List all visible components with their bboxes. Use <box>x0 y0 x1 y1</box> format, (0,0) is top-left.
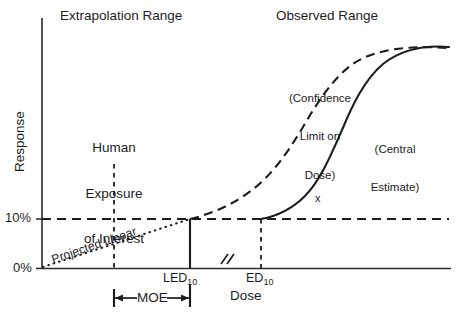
central-line-1: (Central <box>358 143 432 156</box>
y-tick-label-0pct: 0% <box>13 261 32 276</box>
confidence-line-1: (Confidence <box>277 92 363 105</box>
human-exposure-line-1: Human <box>66 140 162 155</box>
moe-label: MOE <box>137 290 168 305</box>
dose-response-figure: Extrapolation Range Observed Range Respo… <box>0 0 457 316</box>
confidence-line-2: Limit on <box>277 130 363 143</box>
axis-break-icon <box>221 254 234 264</box>
central-line-2: Estimate) <box>358 181 432 194</box>
header-extrapolation-range: Extrapolation Range <box>60 8 182 23</box>
y-axis-title: Response <box>12 111 27 172</box>
ed10-base: ED <box>246 271 263 285</box>
led10-subscript: 10 <box>187 277 197 287</box>
annotation-central-estimate: (Central Estimate) <box>358 117 432 220</box>
led10-base: LED <box>163 271 187 285</box>
x-tick-label-led10: LED10 <box>163 271 197 285</box>
confidence-line-3: Dose) <box>277 169 363 182</box>
header-observed-range: Observed Range <box>276 8 378 23</box>
annotation-confidence-limit: (Confidence Limit on Dose) <box>277 66 363 208</box>
x-tick-label-ed10: ED10 <box>246 271 273 285</box>
ed10-subscript: 10 <box>263 277 273 287</box>
human-exposure-line-2: Exposure <box>66 186 162 201</box>
y-tick-label-10pct: 10% <box>5 211 31 226</box>
data-point-marker-x: x <box>315 192 321 204</box>
x-axis-title: Dose <box>230 288 262 303</box>
